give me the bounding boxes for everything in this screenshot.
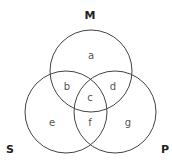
venn-diagram: M S P a b c d e f g [0, 0, 172, 163]
region-e: e [49, 117, 55, 128]
region-f: f [88, 117, 92, 128]
region-a: a [88, 50, 94, 61]
region-g: g [125, 117, 131, 128]
region-d: d [110, 81, 116, 92]
set-label-m: M [85, 9, 96, 22]
set-label-p: P [161, 143, 169, 156]
set-label-s: S [6, 143, 14, 156]
region-c: c [87, 92, 93, 103]
region-b: b [64, 81, 70, 92]
